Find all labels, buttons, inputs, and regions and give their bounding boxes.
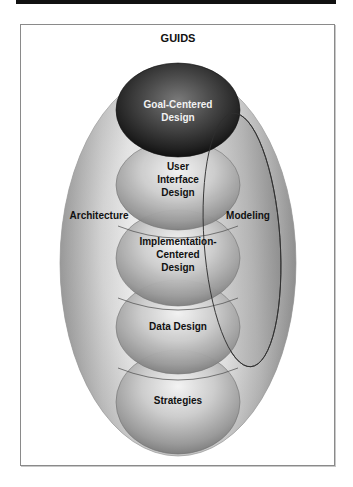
label-strategies: Strategies (154, 395, 203, 406)
diagram-title: GUIDS (161, 32, 196, 44)
label-architecture: Architecture (70, 210, 129, 221)
label-goal-line1: Goal-Centered (144, 99, 213, 110)
sphere-goal-centered-design (116, 63, 240, 157)
label-impl-line1: Implementation- (139, 236, 216, 247)
label-goal-line2: Design (161, 112, 194, 123)
label-ui-line2: Interface (157, 174, 199, 185)
label-impl-line2: Centered (156, 249, 199, 260)
label-ui-line3: Design (161, 187, 194, 198)
label-data-design: Data Design (149, 321, 207, 332)
label-ui-line1: User (167, 161, 189, 172)
guids-diagram: GUIDS Goal-Centered Design User Interfac… (0, 0, 353, 487)
label-impl-line3: Design (161, 262, 194, 273)
label-modeling: Modeling (226, 210, 270, 221)
